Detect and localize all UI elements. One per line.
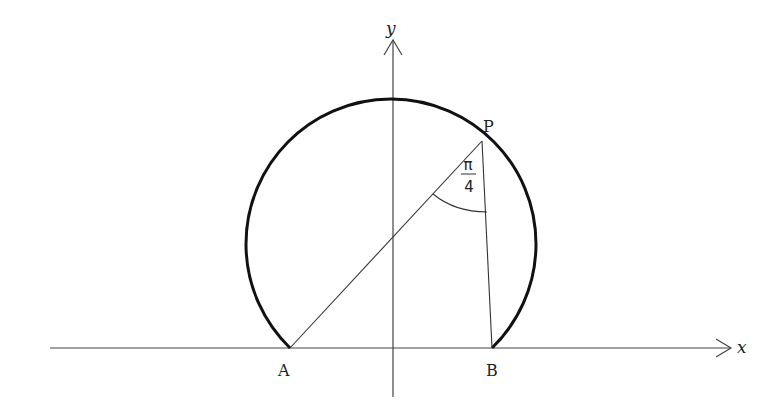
point-P-label: P — [483, 117, 494, 136]
point-B-label: B — [486, 361, 498, 380]
angle-marker — [433, 194, 487, 212]
x-axis-label: x — [737, 337, 747, 357]
diagram-canvas: y x P A B π 4 — [0, 0, 782, 418]
circular-arc — [246, 99, 536, 348]
angle-label: π 4 — [461, 156, 476, 196]
x-axis — [50, 339, 731, 357]
y-axis — [384, 40, 402, 397]
segment-PA — [290, 141, 482, 348]
segment-PB — [482, 141, 492, 348]
angle-denominator: 4 — [464, 178, 474, 196]
angle-numerator: π — [463, 156, 472, 174]
point-A-label: A — [277, 361, 290, 380]
y-axis-label: y — [385, 18, 396, 38]
